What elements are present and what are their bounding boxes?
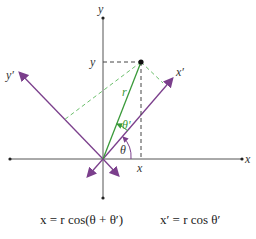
x-coord-label: x bbox=[136, 161, 143, 175]
y-prime-label: y′ bbox=[5, 68, 14, 82]
rotation-diagram: y y x x x′ y′ r θ θ′ bbox=[0, 0, 256, 239]
equation-x-prime: x′ = r cos θ′ bbox=[160, 212, 220, 228]
theta-label: θ bbox=[120, 143, 126, 157]
r-label: r bbox=[122, 85, 127, 99]
rotated-projection-lines bbox=[64, 62, 163, 120]
x-axis bbox=[8, 157, 243, 160]
theta-prime-label: θ′ bbox=[122, 118, 131, 132]
x-axis-label: x bbox=[244, 152, 251, 166]
y-coord-label: y bbox=[89, 55, 96, 69]
equation-x: x = r cos(θ + θ′) bbox=[40, 212, 123, 228]
x-prime-label: x′ bbox=[175, 65, 184, 79]
y-axis bbox=[101, 16, 104, 199]
y-axis-label: y bbox=[97, 2, 104, 16]
point bbox=[138, 59, 143, 64]
